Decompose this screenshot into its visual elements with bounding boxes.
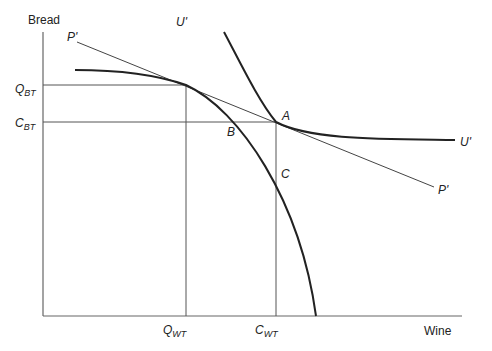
price-line-top-label: P' xyxy=(67,30,78,44)
production-frontier xyxy=(75,70,316,316)
price-line-right-label: P' xyxy=(438,183,449,197)
trade-gains-diagram: Bread Wine U' U' P' P' A B C QBT CBT QWT… xyxy=(0,0,492,351)
x-axis-label: Wine xyxy=(424,324,452,338)
price-line xyxy=(77,42,434,187)
indifference-right-label: U' xyxy=(460,135,472,149)
point-c-label: C xyxy=(281,167,290,181)
point-b-label: B xyxy=(227,125,235,139)
indifference-curve xyxy=(224,32,455,140)
q-bt-label: QBT xyxy=(15,82,37,98)
y-axis-label: Bread xyxy=(28,13,60,27)
c-bt-label: CBT xyxy=(15,116,37,132)
indifference-top-label: U' xyxy=(176,15,188,29)
point-a-label: A xyxy=(281,109,290,123)
c-wt-label: CWT xyxy=(255,323,279,339)
q-wt-label: QWT xyxy=(163,323,188,339)
